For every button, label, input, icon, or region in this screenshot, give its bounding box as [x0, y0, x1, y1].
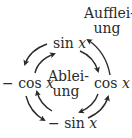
node-top-var: x	[78, 35, 86, 51]
inner-label-line2: ung	[48, 84, 84, 99]
node-bottom-var: x	[89, 115, 97, 131]
node-right: cos x	[94, 76, 130, 90]
node-top: sin x	[53, 36, 86, 50]
outer-label: Aufflei- ung	[84, 6, 130, 36]
outer-arrow-sin-to-negcos	[25, 44, 47, 64]
node-left-fn: − cos	[2, 75, 42, 91]
inner-label-line1: Ablei-	[48, 69, 84, 84]
node-left: − cos x	[2, 76, 54, 90]
inner-label: Ablei- ung	[48, 69, 84, 99]
outer-arrow-negcos-to-negsin	[26, 96, 44, 120]
outer-label-line2: ung	[84, 21, 130, 36]
node-top-fn: sin	[53, 35, 74, 51]
node-right-fn: cos	[94, 75, 117, 91]
outer-arrow-cos-to-sin	[88, 40, 110, 75]
node-bottom: − sin x	[48, 116, 97, 130]
node-right-var: x	[122, 75, 130, 91]
node-bottom-fn: − sin	[48, 115, 85, 131]
outer-label-line1: Aufflei-	[84, 6, 130, 21]
